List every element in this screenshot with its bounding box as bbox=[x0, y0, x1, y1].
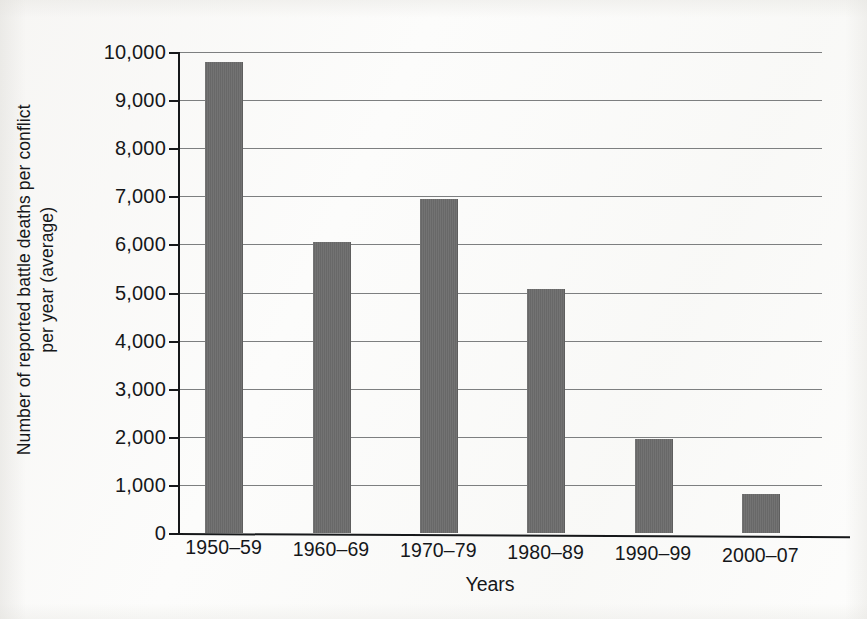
gridline bbox=[178, 437, 822, 438]
gridline bbox=[178, 389, 822, 390]
bar bbox=[420, 199, 458, 533]
y-axis-tick-label: 4,000 bbox=[58, 329, 166, 352]
y-axis-tick bbox=[169, 293, 180, 295]
y-axis-tick bbox=[169, 52, 180, 54]
x-axis-title: Years bbox=[0, 573, 867, 596]
y-axis-tick bbox=[169, 485, 180, 487]
y-axis-tick-label: 10,000 bbox=[58, 41, 166, 64]
y-axis-line bbox=[178, 52, 180, 534]
bar bbox=[742, 494, 780, 533]
y-axis-tick bbox=[169, 100, 180, 102]
y-axis-tick-label: 1,000 bbox=[58, 473, 166, 496]
y-axis-tick-label: 2,000 bbox=[58, 425, 166, 448]
y-axis-tick bbox=[169, 437, 180, 439]
y-axis-tick bbox=[169, 148, 180, 150]
gridline bbox=[178, 100, 822, 101]
chart-page: Number of reported battle deaths per con… bbox=[0, 0, 867, 619]
gridline bbox=[178, 485, 822, 486]
x-axis-tick-labels: 1950–591960–691970–791980–891990–992000–… bbox=[178, 536, 850, 564]
y-axis-tick-label: 6,000 bbox=[58, 233, 166, 256]
x-axis-tick-label: 2000–07 bbox=[690, 544, 830, 567]
y-axis-title-line-1: Number of reported battle deaths per con… bbox=[12, 105, 35, 456]
y-axis-tick-label: 3,000 bbox=[58, 377, 166, 400]
y-axis-tick-label: 7,000 bbox=[58, 185, 166, 208]
y-axis-tick bbox=[169, 196, 180, 198]
gridline bbox=[178, 148, 822, 149]
bar bbox=[527, 289, 565, 533]
gridline bbox=[178, 244, 822, 245]
y-axis-tick bbox=[169, 244, 180, 246]
bar bbox=[205, 62, 243, 533]
gridline bbox=[178, 52, 822, 53]
y-axis-tick bbox=[169, 341, 180, 343]
y-axis-tick-label: 0 bbox=[58, 522, 166, 545]
plot-area bbox=[178, 52, 822, 533]
y-axis-tick-label: 9,000 bbox=[58, 89, 166, 112]
bar bbox=[313, 242, 351, 533]
gridline bbox=[178, 196, 822, 197]
gridline bbox=[178, 293, 822, 294]
y-axis-tick-label: 8,000 bbox=[58, 137, 166, 160]
y-axis-tick bbox=[169, 389, 180, 391]
gridline bbox=[178, 341, 822, 342]
bar bbox=[635, 439, 673, 533]
y-axis-tick-label: 5,000 bbox=[58, 281, 166, 304]
y-axis-tick-labels: 01,0002,0003,0004,0005,0006,0007,0008,00… bbox=[48, 52, 166, 534]
